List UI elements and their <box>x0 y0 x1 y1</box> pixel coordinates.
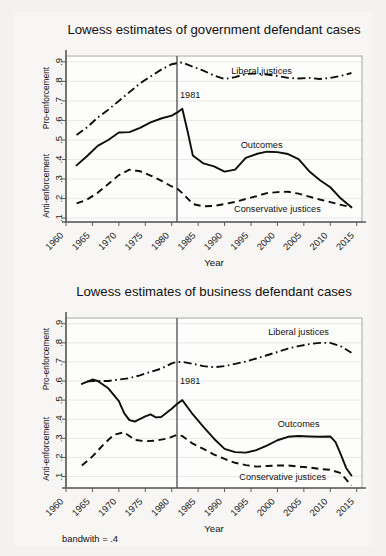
x-tick-label: 2015 <box>334 496 357 519</box>
bandwidth-note: bandwith = .4 <box>62 533 118 544</box>
y-tick-label: .2 <box>54 195 65 203</box>
annotation-outcomes: Outcomes <box>278 419 320 429</box>
y-tick-label: .8 <box>54 77 65 85</box>
chart-title: Lowess estimates of business defendant c… <box>76 284 352 299</box>
y-axis-title-pro-enforcement: Pro-enforcement <box>41 327 51 390</box>
annotation-conservative-justices: Conservative justices <box>239 472 326 482</box>
y-tick-label: .1 <box>54 214 65 222</box>
x-tick-label: 1980 <box>149 496 172 519</box>
y-tick-label: .5 <box>54 396 65 404</box>
y-tick-label: .3 <box>54 434 65 442</box>
y-tick-label: .3 <box>54 175 65 183</box>
x-tick-label: 1960 <box>43 230 66 253</box>
x-tick-label: 2005 <box>281 496 304 519</box>
plot-area-background <box>67 319 361 487</box>
x-tick-label: 1970 <box>96 230 119 253</box>
y-tick-label: .8 <box>54 339 65 347</box>
chart-title: Lowess estimates of government defendant… <box>67 22 361 37</box>
x-axis-title: Year <box>204 257 224 268</box>
chart-government-defendant: Lowess estimates of government defendant… <box>0 14 386 276</box>
x-tick-label: 1965 <box>69 230 92 253</box>
annotation-liberal-justices: Liberal justices <box>268 327 329 337</box>
page-background: Lowess estimates of government defendant… <box>0 0 386 556</box>
x-tick-label: 2000 <box>254 496 277 519</box>
x-tick-label: 1995 <box>228 496 251 519</box>
x-tick-label: 1970 <box>96 496 119 519</box>
annotation-outcomes: Outcomes <box>241 140 283 150</box>
y-tick-label: .4 <box>54 155 65 164</box>
y-tick-label: .1 <box>54 473 65 481</box>
x-axis-title: Year <box>204 523 224 534</box>
x-tick-label: 1985 <box>175 230 198 253</box>
annotation-liberal-justices: Liberal justices <box>231 66 292 76</box>
x-tick-label: 1960 <box>43 496 66 519</box>
y-tick-label: .5 <box>54 136 65 144</box>
x-tick-label: 2000 <box>254 230 277 253</box>
y-tick-label: .6 <box>54 116 65 124</box>
x-tick-label: 1965 <box>69 496 92 519</box>
y-tick-label: .7 <box>54 97 65 105</box>
x-tick-label: 2010 <box>307 230 330 253</box>
x-tick-label: 2015 <box>334 230 357 253</box>
y-tick-label: .7 <box>54 358 65 366</box>
x-tick-label: 2005 <box>281 230 304 253</box>
annotation-conservative-justices: Conservative justices <box>234 204 321 214</box>
x-tick-label: 1990 <box>201 496 224 519</box>
y-axis-title-anti-enforcement: Anti-enforcement <box>41 416 51 480</box>
y-tick-label: .6 <box>54 377 65 385</box>
x-tick-label: 1980 <box>149 230 172 253</box>
y-tick-label: .2 <box>54 453 65 461</box>
y-tick-label: .4 <box>54 415 65 424</box>
y-tick-label: .9 <box>54 320 65 328</box>
x-tick-label: 1985 <box>175 496 198 519</box>
annotation-reference-year: 1981 <box>180 90 200 100</box>
y-axis-title-anti-enforcement: Anti-enforcement <box>41 153 51 217</box>
y-tick-label: .9 <box>54 58 65 66</box>
chart-business-defendant: Lowess estimates of business defendant c… <box>0 276 386 548</box>
x-tick-label: 1975 <box>122 496 145 519</box>
x-tick-label: 1995 <box>228 230 251 253</box>
x-tick-label: 1975 <box>122 230 145 253</box>
annotation-reference-year: 1981 <box>180 376 200 386</box>
x-tick-label: 2010 <box>307 496 330 519</box>
x-tick-label: 1990 <box>201 230 224 253</box>
y-axis-title-pro-enforcement: Pro-enforcement <box>41 66 51 129</box>
